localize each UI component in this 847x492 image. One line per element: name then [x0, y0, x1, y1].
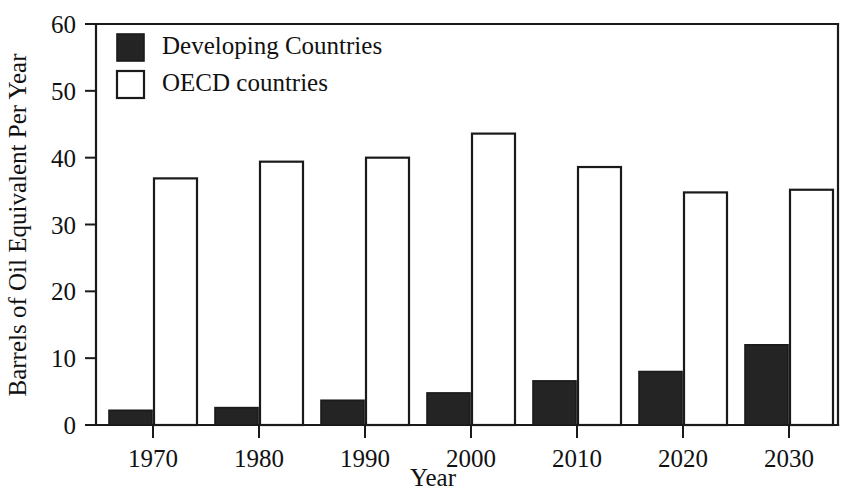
bar-oecd-1980: [260, 162, 303, 425]
bar-oecd-2000: [472, 134, 515, 425]
bar-developing-1970: [109, 410, 152, 425]
bar-developing-2000: [427, 393, 470, 425]
bars-layer: [109, 134, 833, 425]
y-axis-ticks: 0102030405060: [51, 11, 96, 439]
y-tick-label: 40: [51, 145, 76, 172]
bar-developing-1980: [215, 408, 258, 425]
chart-legend: Developing CountriesOECD countries: [117, 32, 382, 98]
legend-label: Developing Countries: [162, 32, 382, 59]
y-tick-label: 10: [51, 345, 76, 372]
x-tick-label: 2010: [552, 445, 602, 472]
x-tick-label: 2030: [764, 445, 814, 472]
x-tick-label: 2020: [658, 445, 708, 472]
bar-oecd-2030: [790, 190, 833, 425]
x-axis-title: Year: [410, 464, 457, 491]
bar-oecd-2020: [684, 192, 727, 425]
bar-oecd-1990: [366, 158, 409, 425]
y-tick-label: 0: [64, 412, 77, 439]
y-tick-label: 20: [51, 278, 76, 305]
y-axis-title: Barrels of Oil Equivalent Per Year: [4, 53, 31, 397]
x-axis-ticks: 1970198019902000201020202030: [128, 425, 814, 472]
y-tick-label: 60: [51, 11, 76, 38]
legend-swatch-oecd: [117, 71, 144, 98]
y-tick-label: 30: [51, 212, 76, 239]
x-tick-label: 1980: [234, 445, 284, 472]
bar-developing-1990: [321, 400, 364, 425]
chart-page: 0102030405060 19701980199020002010202020…: [0, 0, 847, 492]
legend-swatch-developing: [117, 34, 144, 61]
bar-oecd-2010: [578, 167, 621, 425]
bar-chart: 0102030405060 19701980199020002010202020…: [0, 0, 847, 492]
y-tick-label: 50: [51, 78, 76, 105]
bar-developing-2020: [639, 372, 682, 425]
bar-developing-2030: [745, 345, 788, 425]
x-tick-label: 1970: [128, 445, 178, 472]
bar-oecd-1970: [154, 178, 197, 425]
legend-label: OECD countries: [162, 69, 328, 96]
bar-developing-2010: [533, 381, 576, 425]
x-tick-label: 1990: [340, 445, 390, 472]
